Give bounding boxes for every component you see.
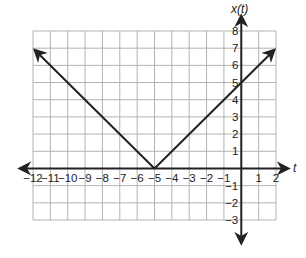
y-tick-label: 8 [232,25,238,37]
x-tick-label: −11 [41,172,60,184]
x-tick-label: −9 [79,172,92,184]
x-tick-label: 1 [255,172,261,184]
grid [33,31,276,220]
y-tick-label: −1 [225,180,238,192]
series-segment [35,50,155,168]
y-tick-label: 2 [232,128,238,140]
x-tick-label: −12 [23,172,43,184]
y-tick-label: 4 [232,94,239,106]
x-tick-label: −10 [58,172,78,184]
y-tick-label: 7 [232,42,238,54]
y-axis-label: x(t) [230,2,248,16]
series-segment [155,50,275,168]
x-tick-label: −8 [96,172,109,184]
y-tick-label: 6 [232,59,238,71]
y-tick-label: 1 [232,145,238,157]
y-tick-label: −2 [225,197,238,209]
y-tick-label: 3 [232,111,238,123]
x-tick-label: −7 [113,172,126,184]
x-tick-label: 2 [273,172,279,184]
x-tick-label: −5 [148,172,161,184]
chart: −12−11−10−9−8−7−6−5−4−3−2−11287654321−1−… [0,0,306,258]
x-tick-label: −3 [183,172,196,184]
x-tick-label: −4 [165,172,179,184]
y-tick-label: −3 [225,214,238,226]
x-tick-label: −2 [200,172,213,184]
x-tick-label: −6 [131,172,144,184]
x-axis-label: t [293,161,297,175]
